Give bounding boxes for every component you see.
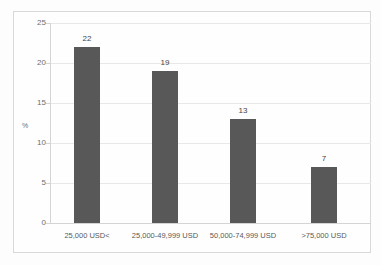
bar-value-label-3: 7 [304, 154, 344, 163]
x-axis-line [50, 223, 371, 224]
bar-chart: 22 19 13 7 25 20 15 10 5 0 % 25,000 USD<… [0, 0, 381, 265]
y-axis-title: % [22, 122, 28, 130]
bar-value-label-2: 13 [223, 106, 263, 115]
y-tick-mark-5 [46, 183, 50, 184]
y-tick-label-25: 25 [16, 19, 46, 27]
bar-1[interactable] [152, 71, 178, 223]
y-tick-mark-20 [46, 63, 50, 64]
y-axis-line [50, 23, 51, 224]
y-tick-label-20: 20 [16, 59, 46, 67]
bar-value-label-0: 22 [67, 34, 107, 43]
gridline-25 [50, 23, 371, 24]
bar-value-label-1: 19 [145, 58, 185, 67]
x-tick-label-3: >75,000 USD [274, 231, 374, 240]
plot-area: 22 19 13 7 [50, 23, 371, 223]
y-tick-label-0: 0 [16, 219, 46, 227]
y-tick-mark-15 [46, 103, 50, 104]
y-tick-label-5: 5 [16, 179, 46, 187]
y-tick-mark-25 [46, 23, 50, 24]
y-tick-mark-10 [46, 143, 50, 144]
y-tick-mark-0 [46, 223, 50, 224]
bar-3[interactable] [311, 167, 337, 223]
y-axis-ticks: 25 20 15 10 5 0 [12, 23, 46, 223]
y-tick-label-15: 15 [16, 99, 46, 107]
bar-0[interactable] [74, 47, 100, 223]
bar-2[interactable] [230, 119, 256, 223]
y-tick-label-10: 10 [16, 139, 46, 147]
